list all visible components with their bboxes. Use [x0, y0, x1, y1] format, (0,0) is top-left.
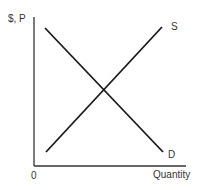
- supply-label: S: [171, 22, 178, 32]
- y-axis-label: $, P: [8, 14, 26, 24]
- origin-label: 0: [31, 171, 37, 181]
- x-axis-label: Quantity: [153, 170, 190, 180]
- supply-demand-diagram: [0, 0, 200, 190]
- demand-label: D: [168, 150, 175, 160]
